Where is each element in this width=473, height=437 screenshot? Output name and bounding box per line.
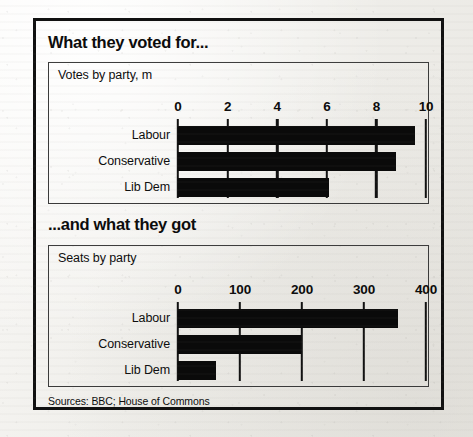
category-label: Conservative xyxy=(98,337,170,351)
bar xyxy=(178,152,396,171)
bar xyxy=(178,126,415,145)
bar xyxy=(178,361,216,380)
x-axis-tick-label: 0 xyxy=(174,99,181,114)
category-label: Labour xyxy=(132,128,170,142)
plot-area-votes: 0246810LabourConservativeLib Dem xyxy=(49,63,428,203)
x-axis-tick-label: 100 xyxy=(229,282,251,297)
plot-area-seats: 0100200300400LabourConservativeLib Dem xyxy=(49,246,428,386)
x-axis-tick-label: 300 xyxy=(353,282,375,297)
bar xyxy=(178,178,329,197)
category-label: Lib Dem xyxy=(124,180,170,194)
chart-panel-votes: Votes by party, m 0246810LabourConservat… xyxy=(48,62,429,204)
infographic-frame: What they voted for... Votes by party, m… xyxy=(33,18,444,410)
x-axis-tick-label: 4 xyxy=(274,99,281,114)
x-axis-tick-rule xyxy=(425,302,427,381)
x-axis-tick-rule xyxy=(425,119,427,198)
x-axis-tick-label: 0 xyxy=(174,282,181,297)
chart-panel-seats: Seats by party 0100200300400LabourConser… xyxy=(48,245,429,387)
x-axis-tick-label: 10 xyxy=(419,99,434,114)
bar xyxy=(178,309,398,328)
x-axis-tick-label: 400 xyxy=(415,282,437,297)
category-label: Conservative xyxy=(98,154,170,168)
x-axis-tick-label: 6 xyxy=(323,99,330,114)
x-axis-tick-label: 2 xyxy=(224,99,231,114)
bar xyxy=(178,335,301,354)
chart-heading-votes: What they voted for... xyxy=(48,33,208,52)
x-axis-tick-label: 8 xyxy=(373,99,380,114)
x-axis-tick-label: 200 xyxy=(291,282,313,297)
source-note: Sources: BBC; House of Commons xyxy=(48,395,210,407)
category-label: Lib Dem xyxy=(124,363,170,377)
chart-heading-seats: ...and what they got xyxy=(48,215,196,234)
category-label: Labour xyxy=(132,311,170,325)
